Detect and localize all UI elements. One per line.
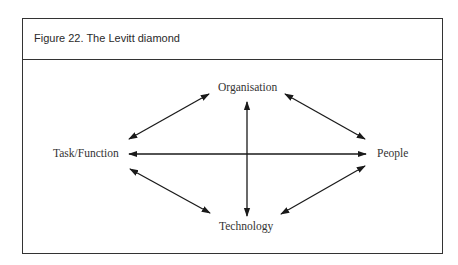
arrow-technology-people (281, 166, 365, 214)
arrow-task-organisation (129, 94, 209, 139)
arrow-organisation-people (285, 94, 365, 139)
node-task-function: Task/Function (53, 147, 119, 159)
node-people: People (377, 147, 408, 159)
arrow-task-technology (130, 169, 210, 213)
node-technology: Technology (219, 220, 273, 232)
node-organisation: Organisation (218, 81, 277, 93)
